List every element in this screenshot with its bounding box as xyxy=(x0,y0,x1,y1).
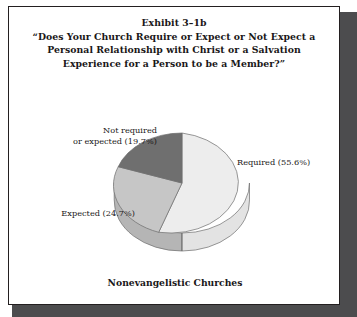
pie-label-expected: Expected (24.7%) xyxy=(17,208,135,219)
pie-chart: Required (55.6%) Expected (24.7%) Not re… xyxy=(9,7,341,306)
figure-drop-shadow-right xyxy=(340,12,357,317)
chart-caption: Nonevangelistic Churches xyxy=(9,277,341,288)
pie-label-required: Required (55.6%) xyxy=(237,157,310,168)
pie-label-not-required: Not required or expected (19.7%) xyxy=(39,125,157,146)
figure-frame: Exhibit 3–1b “Does Your Church Require o… xyxy=(8,6,340,305)
pie-label-not-required-line-1: Not required xyxy=(39,125,157,136)
pie-label-not-required-line-2: or expected (19.7%) xyxy=(39,136,157,147)
figure-drop-shadow-bottom xyxy=(12,305,357,317)
pie-chart-graphic xyxy=(107,129,257,257)
